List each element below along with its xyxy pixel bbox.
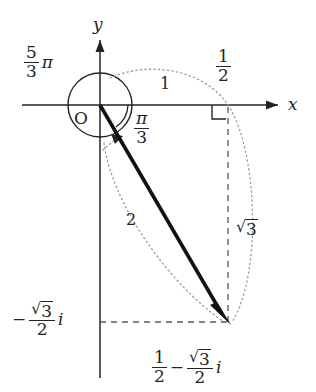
imag-axis-unit: i xyxy=(58,311,63,328)
y-axis-arrowhead xyxy=(96,40,105,52)
reference-angle-fraction: π 3 xyxy=(134,110,149,146)
imag-axis-radical-sign: √ xyxy=(31,301,41,317)
imag-axis-fraction: √ 3 2 xyxy=(29,300,55,338)
reference-angle-numerator: π xyxy=(134,110,149,129)
argument-numerator: 5 xyxy=(24,44,39,63)
real-part-denominator: 2 xyxy=(216,67,231,85)
right-angle-marker xyxy=(212,105,226,119)
imag-axis-denominator: 2 xyxy=(29,321,55,339)
argument-angle-label: 5 3 π xyxy=(24,44,53,80)
radius-length-label: 1 xyxy=(160,76,170,92)
reference-angle-denominator: 3 xyxy=(134,129,149,147)
argument-denominator: 3 xyxy=(24,63,39,81)
radical-sign: √ xyxy=(236,219,246,235)
reference-angle-label: π 3 xyxy=(134,110,149,146)
point-imag-numerator: √ 3 xyxy=(187,348,213,369)
point-imag-denominator: 2 xyxy=(187,369,213,387)
point-radical-sign: √ xyxy=(189,349,199,365)
point-radical-body: 3 xyxy=(199,349,211,368)
x-axis-label: x xyxy=(288,96,298,113)
real-part-numerator: 1 xyxy=(216,48,231,67)
origin-label: O xyxy=(74,110,88,127)
point-imag-fraction: √ 3 2 xyxy=(187,348,213,386)
point-real-numerator: 1 xyxy=(152,349,167,368)
point-imaginary-unit: i xyxy=(216,359,221,376)
imaginary-axis-value-label: − √ 3 2 i xyxy=(12,300,63,338)
imag-axis-numerator: √ 3 xyxy=(29,300,55,321)
x-axis-arrowhead xyxy=(266,101,278,110)
point-real-fraction: 1 2 xyxy=(152,349,167,385)
y-axis-label: y xyxy=(93,16,103,33)
imaginary-magnitude-label: √ 3 xyxy=(236,218,258,238)
complex-vector xyxy=(100,105,222,314)
imag-axis-radical-body: 3 xyxy=(41,301,53,320)
sqrt3-radical: √ 3 xyxy=(236,219,258,238)
real-part-fraction: 1 2 xyxy=(216,48,231,84)
vector-arc-label: 2 xyxy=(126,212,136,228)
radical-body: 3 xyxy=(245,219,257,238)
point-coordinate-label: 1 2 − √ 3 2 i xyxy=(152,348,221,386)
complex-plane-figure: y x O 5 3 π π 3 1 2 1 2 √ 3 xyxy=(0,0,316,392)
argument-fraction: 5 3 xyxy=(24,44,39,80)
imag-minus-sign: − xyxy=(12,311,26,328)
vector-arc-dotted-left xyxy=(104,143,224,322)
pi-symbol: π xyxy=(42,54,53,71)
real-part-label: 1 2 xyxy=(216,48,231,84)
point-real-denominator: 2 xyxy=(152,368,167,386)
imag-arc-dotted-right xyxy=(228,105,253,322)
point-operator: − xyxy=(170,359,184,376)
